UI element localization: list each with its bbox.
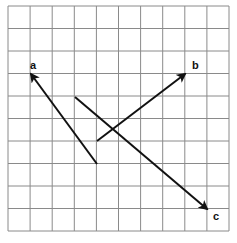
grid	[8, 6, 229, 231]
label-b: b	[192, 59, 199, 71]
vector-grid-diagram: a b c	[0, 0, 237, 243]
label-a: a	[30, 59, 37, 71]
vector-a: a	[30, 59, 97, 164]
label-c: c	[213, 210, 219, 222]
